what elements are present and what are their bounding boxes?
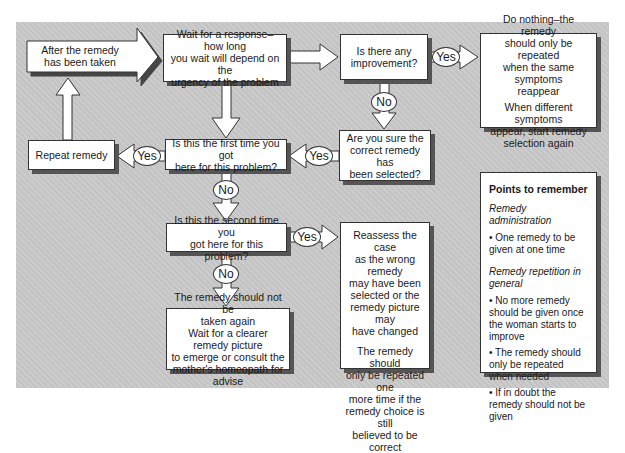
second-time-line-1: Is this the second time you <box>174 214 278 238</box>
yes-label-second: Yes <box>293 227 321 247</box>
second-time-question-box: Is this the second time you got here for… <box>166 223 287 252</box>
improvement-question-box: Is there any improvement? <box>340 34 428 80</box>
sure-line-1: Are you sure the <box>346 132 423 144</box>
section-heading-administration: Remedy administration <box>489 203 588 227</box>
reassess-line: remedy picture may <box>350 301 419 325</box>
reassess-line: Reassess the case <box>353 229 417 253</box>
do-nothing-line: When different symptoms <box>504 101 572 125</box>
improvement-line-1: Is there any <box>357 45 412 57</box>
arrow-wait-to-improvement <box>287 44 338 70</box>
reassess-line: The remedy should <box>357 345 413 369</box>
not-again-line: Wait for a clearer remedy picture <box>188 327 268 351</box>
start-node: After the remedy has been taken <box>30 44 130 68</box>
reassess-line: selected or the <box>351 289 420 301</box>
improvement-line-2: improvement? <box>351 57 418 69</box>
repeat-remedy-label: Repeat remedy <box>36 149 108 161</box>
wait-line-2: you wait will depend on the <box>171 52 280 76</box>
first-time-line-2: here for this problem? <box>175 161 277 173</box>
not-again-line: taken again <box>201 315 255 327</box>
start-line-1: After the remedy <box>30 44 130 56</box>
no-label-second: No <box>213 264 239 284</box>
arrow-wait-to-first <box>212 82 240 138</box>
do-nothing-line: reappear <box>517 85 559 97</box>
reassess-line: may have been <box>349 277 421 289</box>
not-again-line: The remedy should not be <box>174 291 281 315</box>
reassess-line: more time if the <box>349 393 421 405</box>
first-time-question-box: Is this the first time you got here for … <box>165 139 287 170</box>
repeat-remedy-box: Repeat remedy <box>28 140 115 170</box>
section-heading-repetition: Remedy repetition in general <box>489 266 588 290</box>
do-nothing-line: Do nothing–the remedy <box>503 13 574 37</box>
do-nothing-line: selection again <box>503 137 573 149</box>
bullet-item: If in doubt the remedy should not be giv… <box>489 387 588 423</box>
reassess-line: believed to be correct <box>352 429 417 453</box>
not-again-line: mother's homeopath for advise <box>173 363 284 387</box>
not-again-line: to emerge or consult the <box>171 351 284 363</box>
second-time-line-2: got here for this problem? <box>190 238 263 262</box>
points-title: Points to remember <box>489 183 588 195</box>
reassess-line: as the wrong remedy <box>355 253 415 277</box>
do-nothing-box: Do nothing–the remedy should only be rep… <box>480 33 597 128</box>
sure-remedy-question-box: Are you sure the correct remedy has been… <box>339 130 431 181</box>
no-label-improvement: No <box>371 92 397 112</box>
not-again-box: The remedy should not be taken again Wai… <box>166 308 290 370</box>
do-nothing-line: when the same symptoms <box>503 61 574 85</box>
reassess-line: only be repeated one <box>346 369 424 393</box>
bullet-item: No more remedy should be given once the … <box>489 295 588 343</box>
yes-label-sure: Yes <box>305 146 333 166</box>
bullet-item: The remedy should only be repeated when … <box>489 347 588 383</box>
reassess-line: have changed <box>352 325 418 337</box>
first-time-line-1: Is this the first time you got <box>172 137 279 161</box>
wait-line-3: urgency of the problem <box>171 76 278 88</box>
sure-line-3: been selected? <box>349 168 420 180</box>
reassess-box: Reassess the case as the wrong remedy ma… <box>340 222 430 369</box>
start-line-2: has been taken <box>30 56 130 68</box>
no-label-first: No <box>213 180 239 200</box>
yes-label-improvement: Yes <box>432 47 460 67</box>
yes-label-first: Yes <box>133 146 161 166</box>
do-nothing-line: should only be repeated <box>505 37 573 61</box>
wait-response-box: Wait for a response–how long you wait wi… <box>163 34 287 82</box>
arrow-repeat-to-start <box>56 78 80 140</box>
wait-line-1: Wait for a response–how long <box>177 28 274 52</box>
points-to-remember-box: Points to remember Remedy administration… <box>480 172 597 373</box>
sure-line-2: correct remedy has <box>350 144 420 168</box>
bullet-item: One remedy to be given at one time <box>489 232 588 256</box>
do-nothing-line: appear, start remedy <box>490 125 586 137</box>
reassess-line: remedy choice is still <box>346 405 425 429</box>
